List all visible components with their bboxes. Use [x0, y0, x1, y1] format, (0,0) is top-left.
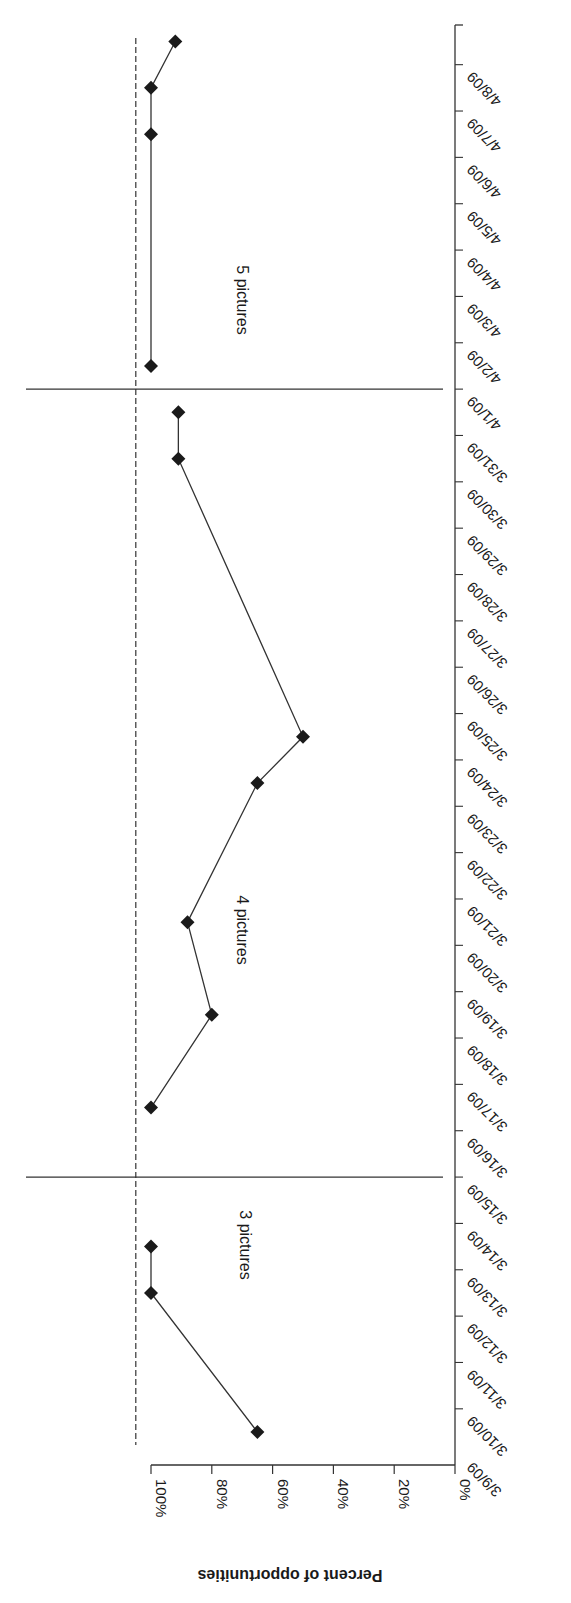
- date-tick-label: 3/10/09: [463, 1413, 510, 1460]
- date-tick-label: 4/5/09: [463, 208, 505, 250]
- date-tick-label: 3/11/09: [463, 1366, 510, 1413]
- diamond-marker: [144, 127, 158, 141]
- date-tick-label: 4/8/09: [463, 69, 505, 111]
- date-tick-label: 4/1/09: [463, 393, 505, 435]
- date-tick-label: 4/7/09: [463, 115, 505, 157]
- date-tick-label: 3/13/09: [463, 1274, 510, 1321]
- date-tick-label: 3/18/09: [463, 1042, 510, 1089]
- date-tick-label: 4/3/09: [463, 300, 505, 342]
- axes: [151, 25, 463, 1465]
- date-tick-label: 3/24/09: [463, 764, 510, 811]
- date-tick-label: 3/12/09: [463, 1320, 510, 1367]
- diamond-marker: [180, 915, 194, 929]
- date-tick-label: 3/19/09: [463, 996, 510, 1043]
- date-axis-ticks: 3/9/093/10/093/11/093/12/093/13/093/14/0…: [455, 65, 511, 1501]
- date-tick-label: 4/2/09: [463, 347, 505, 389]
- value-tick-label: 40%: [335, 1479, 352, 1509]
- phase-label: 3 pictures: [237, 1210, 254, 1279]
- date-tick-label: 4/4/09: [463, 254, 505, 296]
- y-axis-title: Percent of opportunities: [197, 1567, 382, 1584]
- diamond-marker: [144, 1286, 158, 1300]
- diamond-marker: [171, 405, 185, 419]
- value-tick-label: 0%: [457, 1479, 474, 1501]
- date-tick-label: 3/29/09: [463, 532, 510, 579]
- date-tick-label: 3/17/09: [463, 1088, 510, 1135]
- date-tick-label: 3/16/09: [463, 1135, 510, 1182]
- date-tick-label: 3/23/09: [463, 810, 510, 857]
- diamond-marker: [144, 359, 158, 373]
- value-axis-ticks: 0%20%40%60%80%100%: [151, 1465, 474, 1517]
- date-tick-label: 4/6/09: [463, 161, 505, 203]
- diamond-marker: [144, 1240, 158, 1254]
- series-line: [151, 412, 303, 1107]
- phase-label: 4 pictures: [234, 895, 251, 964]
- date-tick-label: 3/20/09: [463, 949, 510, 996]
- phase-label: 5 pictures: [234, 265, 251, 334]
- diamond-marker: [171, 452, 185, 466]
- date-tick-label: 3/21/09: [463, 903, 510, 950]
- chart: 0%20%40%60%80%100% 3/9/093/10/093/11/093…: [0, 0, 571, 1603]
- value-tick-label: 100%: [153, 1479, 170, 1517]
- phase-change-lines: [26, 389, 443, 1177]
- date-tick-label: 3/30/09: [463, 486, 510, 533]
- date-tick-label: 3/26/09: [463, 671, 510, 718]
- date-tick-label: 3/14/09: [463, 1227, 510, 1274]
- value-tick-label: 60%: [275, 1479, 292, 1509]
- date-tick-label: 3/28/09: [463, 578, 510, 625]
- phase-labels: 3 pictures4 pictures5 pictures: [234, 265, 254, 1279]
- value-tick-label: 80%: [214, 1479, 231, 1509]
- value-tick-label: 20%: [396, 1479, 413, 1509]
- diamond-marker: [144, 1101, 158, 1115]
- date-tick-label: 3/31/09: [463, 439, 510, 486]
- diamond-marker: [250, 1425, 264, 1439]
- diamond-marker: [144, 81, 158, 95]
- diamond-marker: [205, 1008, 219, 1022]
- data-series: [144, 35, 310, 1440]
- date-tick-label: 3/22/09: [463, 857, 510, 904]
- date-tick-label: 3/15/09: [463, 1181, 510, 1228]
- date-tick-label: 3/25/09: [463, 717, 510, 764]
- date-tick-label: 3/27/09: [463, 625, 510, 672]
- diamond-marker: [168, 35, 182, 49]
